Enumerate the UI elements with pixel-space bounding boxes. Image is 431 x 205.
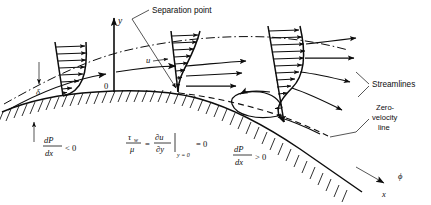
- favorable-pressure-gradient-equation: dP dx < 0: [34, 122, 76, 158]
- wall-shear-mu: μ: [129, 144, 134, 154]
- dpdx-pos-denominator: dx: [235, 157, 243, 167]
- zero-velocity-label-line1: Zero-: [376, 103, 395, 112]
- downstream-axes-group: x ϕ: [356, 167, 403, 199]
- origin-label: 0: [104, 81, 108, 91]
- separation-point-leader: [132, 10, 149, 19]
- boundary-layer-separation-figure: y 0 δ: [0, 0, 431, 205]
- separation-point-pointer: [132, 19, 176, 88]
- dpdx-neg-denominator: dx: [45, 148, 53, 158]
- dpdx-pos-numerator: dP: [234, 144, 243, 154]
- streamline-2: [186, 61, 246, 66]
- separation-point-label: Separation point: [152, 6, 212, 15]
- zero-velocity-callout: Zero- velocity line: [330, 103, 398, 137]
- velocity-profile-reversed: [268, 26, 305, 122]
- wall-shear-equation: τ w μ = ∂u ∂y y = 0 = 0: [126, 132, 207, 158]
- dpdx-neg-numerator: dP: [44, 135, 53, 145]
- profile-3-vectors: [269, 30, 305, 116]
- u-leader: [153, 59, 168, 61]
- velocity-profile-attached: δ: [36, 42, 86, 97]
- wall-shear-dy: ∂y: [156, 144, 164, 154]
- wall-shear-tau-subscript: w: [134, 137, 138, 143]
- dpdx-neg-relation: < 0: [65, 143, 76, 153]
- streamlines-leader: [356, 72, 369, 97]
- streamlines-callout: Streamlines: [356, 72, 415, 97]
- wall-shear-result: = 0: [196, 139, 207, 149]
- zero-velocity-leader: [330, 119, 369, 137]
- u-label: u: [146, 55, 150, 65]
- profile-2-curve: [178, 31, 200, 92]
- streamline-3: [186, 73, 242, 76]
- adverse-pressure-gradient-equation: dP dx > 0: [233, 144, 266, 167]
- wall-shear-equals: =: [145, 139, 150, 149]
- diagram-canvas: y 0 δ: [0, 0, 431, 205]
- wall-shear-eval-at: y = 0: [176, 152, 190, 158]
- phi-axis-label: ϕ: [398, 171, 403, 181]
- streamline-1b: [116, 66, 176, 72]
- streamline-7: [300, 72, 350, 82]
- zero-velocity-label-line2: velocity: [372, 113, 398, 122]
- profile-1-curve: [63, 42, 86, 96]
- wall-shear-du: ∂u: [155, 132, 163, 142]
- streamline-8: [292, 88, 342, 110]
- profile-2-baseline: [171, 31, 178, 92]
- reversed-wall-streamline: [278, 117, 320, 134]
- zero-velocity-label-line3: line: [378, 123, 390, 132]
- x-axis-arrow: [356, 167, 384, 183]
- streamline-5: [306, 38, 356, 44]
- y-axis-label: y: [117, 16, 123, 26]
- wall-shear-tau: τ: [128, 132, 132, 142]
- x-axis-label: x: [381, 189, 386, 199]
- dpdx-pos-relation: > 0: [255, 152, 266, 162]
- streamlines-label: Streamlines: [372, 80, 415, 89]
